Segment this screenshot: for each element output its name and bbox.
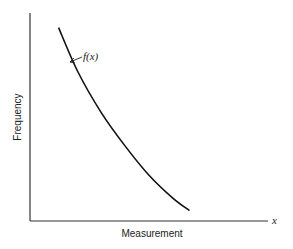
series-annotation: f(x)	[83, 50, 99, 63]
chart: x Measurement Frequency f(x)	[0, 0, 293, 249]
y-axis-label: Frequency	[12, 93, 23, 140]
x-axis-label: Measurement	[121, 228, 182, 239]
x-axis-symbol: x	[271, 214, 277, 226]
series-f-x-line	[59, 28, 190, 211]
